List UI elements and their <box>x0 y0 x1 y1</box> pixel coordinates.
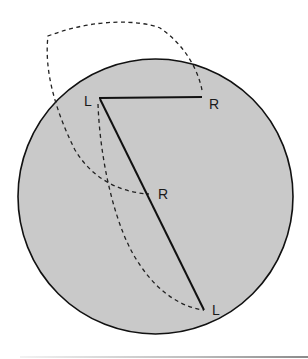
label-R-mid: R <box>158 186 168 202</box>
circle-region <box>18 59 293 334</box>
label-L-bottom: L <box>212 302 220 318</box>
page-edge-rule <box>20 356 308 358</box>
bisected-rotation-diagram: L R R L <box>0 0 308 359</box>
label-L-top: L <box>84 93 92 109</box>
label-R-top: R <box>209 96 219 112</box>
solid-line-L-R-top <box>99 97 202 98</box>
